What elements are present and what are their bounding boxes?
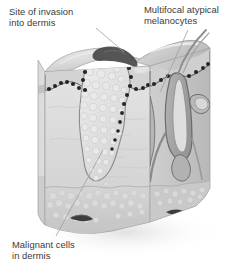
label-multifocal-atypical-melanocytes: Multifocal atypicalmelanocytes	[144, 4, 219, 27]
invasion-site	[93, 46, 138, 68]
label-melanocytes-line2: melanocytes	[144, 15, 197, 26]
label-site-of-invasion: Site of invasioninto dermis	[9, 6, 73, 29]
label-site-of-invasion-line2: into dermis	[9, 17, 55, 28]
label-melanocytes-line1: Multifocal atypical	[144, 4, 219, 15]
skin-block-illustration	[0, 0, 237, 276]
label-malignant-line1: Malignant cells	[12, 239, 75, 250]
label-malignant-cells-in-dermis: Malignant cellsin dermis	[12, 239, 75, 262]
label-malignant-line2: in dermis	[12, 250, 50, 261]
block-front-face	[45, 55, 150, 236]
block-right-face	[150, 48, 210, 222]
label-site-of-invasion-line1: Site of invasion	[9, 6, 73, 17]
